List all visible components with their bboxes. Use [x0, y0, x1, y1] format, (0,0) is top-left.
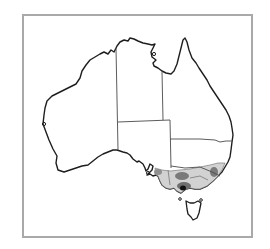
- range-darkest-core: [180, 186, 186, 191]
- range-medium-patch-west: [154, 169, 162, 175]
- distribution-map: [0, 0, 270, 249]
- australia-map-svg: [0, 0, 270, 249]
- range-medium-patch-central: [175, 172, 189, 180]
